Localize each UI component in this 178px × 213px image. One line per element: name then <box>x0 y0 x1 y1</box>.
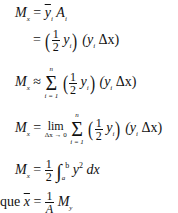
lower-bound: a <box>62 174 66 182</box>
fraction: 12 <box>45 158 53 183</box>
subscript: x <box>27 172 30 180</box>
fraction: 12 <box>52 28 60 53</box>
symbol-M: M <box>15 5 27 20</box>
equation-substitution: = (12 yi) (yi Δx) <box>33 28 119 53</box>
subscript: i <box>110 84 112 92</box>
subscript: i <box>51 15 53 23</box>
lim-word: lim <box>45 120 67 132</box>
paren: ) <box>73 30 78 52</box>
subscript: i <box>93 42 95 50</box>
lower-limit: i = 1 <box>70 139 84 146</box>
summation: nΣi = 1 <box>44 66 58 100</box>
denominator: 2 <box>52 41 60 53</box>
symbol-A: A <box>56 5 65 20</box>
symbol-M: M <box>15 74 27 89</box>
subscript: i <box>112 130 114 138</box>
fraction: 1A <box>45 190 54 213</box>
paren: ) <box>90 72 95 94</box>
equation-moment-strip: Mx = yi Ai <box>15 6 67 20</box>
fraction: 12 <box>69 71 77 96</box>
symbol-M: M <box>15 162 27 177</box>
term: (y <box>82 32 93 47</box>
denominator: 2 <box>45 171 53 183</box>
exponent: 2 <box>79 161 83 170</box>
subscript: x <box>27 84 30 92</box>
denominator: 2 <box>69 84 77 96</box>
equation-integral: Mx = 12 ∫ab y2 dx <box>15 158 100 183</box>
sigma-icon: Σ <box>44 73 58 93</box>
term-end: Δx) <box>116 74 137 89</box>
symbol-M: M <box>58 194 70 209</box>
symbol-y: y <box>80 74 86 89</box>
subscript: y <box>69 204 72 212</box>
prefix-word: que <box>0 194 20 209</box>
fraction: 12 <box>95 117 103 142</box>
subscript: i <box>87 84 89 92</box>
operator: ≈ <box>33 74 41 89</box>
equation-limit-sum: Mx = limΔx → 0 nΣi = 1 (12 yi) (yi Δx) <box>15 112 162 146</box>
denominator: A <box>45 203 54 213</box>
equation-centroid: que x = 1A My <box>0 190 72 213</box>
summation: nΣi = 1 <box>70 112 84 146</box>
differential: dx <box>86 162 99 177</box>
symbol-y: y <box>73 162 79 177</box>
paren: ( <box>63 72 68 94</box>
numerator: 1 <box>95 117 103 130</box>
upper-bound: b <box>65 161 69 170</box>
term-end: Δx) <box>142 120 163 135</box>
symbol-M: M <box>15 120 27 135</box>
subscript: i <box>136 130 138 138</box>
limit: limΔx → 0 <box>45 120 67 139</box>
lower-limit: i = 1 <box>44 93 58 100</box>
operator: = <box>33 5 41 20</box>
subscript: x <box>27 15 30 23</box>
term: (y <box>99 74 110 89</box>
paren: ( <box>88 118 93 140</box>
subscript: x <box>27 130 30 138</box>
term: (y <box>125 120 136 135</box>
paren: ( <box>46 30 51 52</box>
operator: = <box>33 194 41 209</box>
subscript: i <box>65 15 67 23</box>
numerator: 1 <box>69 71 77 84</box>
operator: = <box>33 32 41 47</box>
term-end: Δx) <box>99 32 120 47</box>
denominator: 2 <box>95 130 103 142</box>
symbol-ybar: y <box>45 5 51 20</box>
paren: ) <box>115 118 120 140</box>
symbol-xbar: x <box>24 194 30 209</box>
operator: = <box>33 162 41 177</box>
limit-condition: Δx → 0 <box>45 132 67 139</box>
integral-icon: ∫ <box>56 160 61 182</box>
operator: = <box>33 120 41 135</box>
sigma-icon: Σ <box>70 119 84 139</box>
equation-riemann-sum: Mx ≈ nΣi = 1 (12 yi) (yi Δx) <box>15 66 136 100</box>
